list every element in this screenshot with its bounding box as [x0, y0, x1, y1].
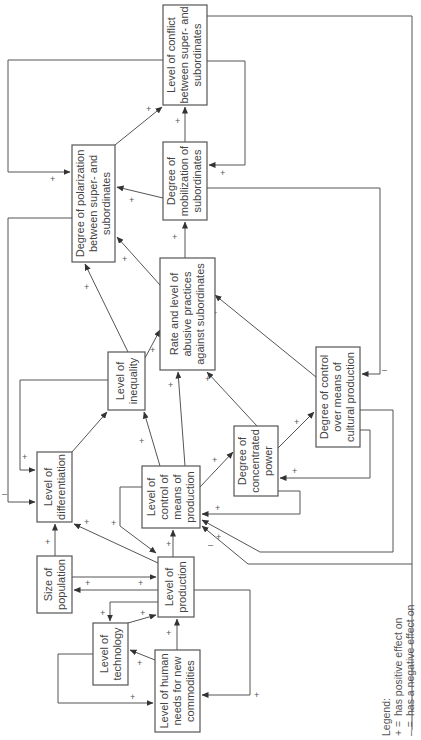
svg-text:Degree of: Degree of: [165, 156, 177, 205]
sign-plus: +: [166, 628, 171, 638]
edge-inequality-polarization: [85, 264, 128, 352]
svg-text:Level of human: Level of human: [158, 653, 170, 728]
edge-production-technology: [110, 602, 158, 621]
sign-plus: +: [138, 578, 143, 588]
sign-plus: +: [137, 658, 142, 668]
node-cultural-production: Degree of control over means of cultural…: [316, 347, 360, 447]
edge-cultural-abusive: [215, 295, 316, 377]
legend: Legend: + = has positive effect on – = h…: [380, 605, 416, 736]
node-inequality: Level of inequality: [108, 352, 145, 410]
svg-text:control of: control of: [158, 473, 170, 519]
node-human-needs: Level of human needs for new commodities: [155, 650, 200, 732]
svg-text:technology: technology: [111, 627, 123, 681]
sign-plus: +: [220, 168, 225, 178]
svg-text:subordinates: subordinates: [191, 23, 203, 86]
sign-plus: +: [205, 374, 210, 384]
sign-plus: +: [139, 436, 144, 446]
sign-plus: +: [140, 608, 145, 618]
sign-plus: +: [166, 539, 171, 549]
svg-text:population: population: [55, 559, 67, 610]
svg-text:between super- and: between super- and: [87, 155, 99, 252]
svg-text:Level of: Level of: [98, 634, 110, 673]
node-control-means-of-production: Level of control of means of production: [142, 466, 200, 528]
edge-control-abusive: [178, 372, 185, 466]
svg-text:abusive practices: abusive practices: [181, 271, 193, 356]
svg-text:concentrated: concentrated: [249, 429, 261, 493]
node-polarization: Degree of polarization between super- an…: [72, 145, 115, 262]
edge-power-abusive: [207, 372, 257, 426]
sign-plus: +: [130, 692, 135, 702]
causal-diagram: + + + + + + + + + + + + – + + – + + + + …: [0, 0, 421, 740]
sign-plus: +: [175, 116, 180, 126]
svg-text:subordinates: subordinates: [100, 172, 112, 235]
svg-text:Level of: Level of: [42, 467, 54, 506]
node-production: Level of production: [158, 557, 194, 617]
edge-production-needs: [194, 590, 250, 695]
sign-plus: +: [292, 466, 297, 476]
sign-minus: –: [2, 489, 7, 499]
node-mobilization: Degree of mobilization of subordinates: [163, 142, 207, 220]
edge-differentiation-inequality: [72, 412, 107, 452]
svg-text:against subordinates: against subordinates: [194, 263, 206, 365]
sign-plus: +: [84, 517, 89, 527]
edge-production-differentiation: [74, 524, 158, 563]
svg-text:differentiation: differentiation: [55, 454, 67, 520]
sign-minus: –: [382, 365, 387, 375]
svg-text:needs for new: needs for new: [171, 656, 183, 725]
svg-text:cultural production: cultural production: [344, 352, 356, 442]
sign-plus: +: [22, 452, 27, 462]
sign-plus: +: [172, 232, 177, 242]
svg-text:means of: means of: [171, 473, 183, 519]
edge-polarization-conflict: [115, 107, 162, 145]
edge-control-inequality: [144, 412, 160, 466]
node-population: Size of population: [37, 556, 72, 613]
svg-text:Level of conflict: Level of conflict: [165, 17, 177, 93]
svg-text:Level of: Level of: [145, 477, 157, 516]
node-differentiation: Level of differentiation: [37, 452, 72, 522]
svg-text:Size of: Size of: [42, 567, 54, 602]
edge-cultural-control: [202, 410, 393, 552]
sign-plus: +: [150, 345, 155, 355]
sign-plus: +: [129, 195, 134, 205]
svg-text:inequality: inequality: [127, 357, 139, 404]
sign-plus: +: [50, 174, 55, 184]
legend-symbol-minus: – =: [404, 721, 416, 736]
sign-plus: +: [215, 503, 220, 513]
legend-text-negative: has a negative effect on: [404, 605, 416, 716]
legend-symbol-plus: + =: [392, 721, 404, 736]
sign-plus: +: [168, 380, 173, 390]
sign-plus: +: [146, 104, 151, 114]
svg-text:Rate and level of: Rate and level of: [168, 272, 180, 355]
sign-plus: +: [111, 518, 116, 528]
svg-text:production: production: [184, 471, 196, 522]
svg-text:power: power: [262, 446, 274, 476]
sign-plus: +: [100, 608, 105, 618]
svg-text:commodities: commodities: [184, 660, 196, 722]
edge-mobilization-cultural: [207, 188, 380, 374]
node-abusive-practices: Rate and level of abusive practices agai…: [160, 258, 215, 370]
svg-text:Degree of: Degree of: [236, 436, 248, 485]
sign-plus: +: [84, 282, 89, 292]
edge-needs-technology: [130, 650, 155, 660]
svg-text:between super- and: between super- and: [178, 6, 190, 103]
sign-plus: +: [85, 578, 90, 588]
svg-text:Level of: Level of: [114, 361, 126, 400]
sign-plus: +: [216, 532, 221, 542]
sign-minus: –: [208, 540, 213, 550]
node-technology: Level of technology: [93, 623, 128, 685]
svg-text:Level of: Level of: [163, 567, 175, 606]
svg-text:subordinates: subordinates: [191, 149, 203, 212]
svg-text:mobilization of: mobilization of: [178, 145, 190, 216]
svg-text:over means of: over means of: [331, 361, 343, 432]
legend-text-positive: has positive effect on: [392, 617, 404, 716]
node-conflict: Level of conflict between super- and sub…: [163, 5, 207, 105]
node-concentrated-power: Degree of concentrated power: [234, 426, 278, 496]
sign-plus: +: [254, 690, 259, 700]
svg-text:Degree of polarization: Degree of polarization: [74, 150, 86, 258]
edge-conflict-control: [202, 526, 412, 564]
edge-mobilization-polarization: [117, 187, 163, 198]
svg-text:Degree of control: Degree of control: [318, 355, 330, 439]
edge-conflict-mobilization: [207, 61, 245, 165]
sign-plus: +: [294, 417, 299, 427]
sign-plus: +: [122, 254, 127, 264]
